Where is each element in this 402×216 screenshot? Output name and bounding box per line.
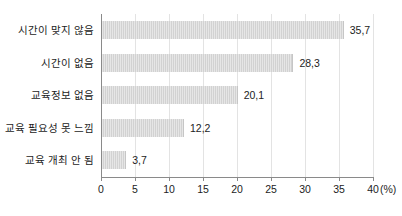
- tickmark-5: [135, 177, 136, 181]
- tick-label-35: 35: [333, 183, 345, 195]
- tickmark-20: [237, 177, 238, 181]
- tick-label-0: 0: [98, 183, 104, 195]
- bar-value-label: 3,7: [126, 151, 147, 169]
- tick-label-10: 10: [163, 183, 175, 195]
- bar-chart: 35,728,320,112,23,7 시간이 맞지 않음시간이 없음교육정보 …: [0, 0, 402, 216]
- bar-row: 28,3: [101, 47, 373, 80]
- bar: [101, 119, 184, 137]
- bar-value-label: 28,3: [293, 54, 319, 72]
- category-labels: 시간이 맞지 않음시간이 없음교육정보 없음교육 필요성 못 느낌교육 개최 안…: [0, 14, 101, 177]
- tickmark-15: [203, 177, 204, 181]
- tick-label-30: 30: [299, 183, 311, 195]
- bar: [101, 86, 238, 104]
- tick-label-40: 40: [367, 183, 379, 195]
- tick-label-25: 25: [265, 183, 277, 195]
- gridline-40: [373, 14, 374, 177]
- bar-value-label: 12,2: [184, 119, 210, 137]
- y-axis-line: [101, 14, 102, 178]
- bar-row: 12,2: [101, 112, 373, 145]
- bar-row: 20,1: [101, 79, 373, 112]
- tickmark-10: [169, 177, 170, 181]
- tickmark-25: [271, 177, 272, 181]
- bar: [101, 21, 344, 39]
- category-label: 교육정보 없음: [31, 79, 101, 112]
- tickmark-0: [101, 177, 102, 181]
- category-label: 시간이 없음: [41, 47, 101, 80]
- category-label: 교육 개최 안 됨: [25, 144, 101, 177]
- bar-value-label: 35,7: [344, 21, 370, 39]
- tick-label-15: 15: [197, 183, 209, 195]
- bar-value-label: 20,1: [238, 86, 264, 104]
- category-label: 교육 필요성 못 느낌: [5, 112, 101, 145]
- tickmark-30: [305, 177, 306, 181]
- tick-label-5: 5: [132, 183, 138, 195]
- tickmark-35: [339, 177, 340, 181]
- x-axis-unit-label: (%): [380, 183, 396, 195]
- bar: [101, 54, 293, 72]
- category-label: 시간이 맞지 않음: [18, 14, 101, 47]
- bar: [101, 151, 126, 169]
- bars-layer: 35,728,320,112,23,7: [101, 14, 373, 177]
- bar-row: 3,7: [101, 144, 373, 177]
- tick-label-20: 20: [231, 183, 243, 195]
- bar-row: 35,7: [101, 14, 373, 47]
- tickmark-40: [373, 177, 374, 181]
